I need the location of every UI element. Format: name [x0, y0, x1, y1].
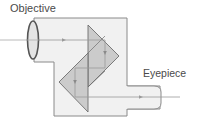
eyepiece-tube: [127, 86, 161, 109]
binocular-prism-diagram: [0, 0, 200, 127]
objective-label: Objective: [10, 3, 56, 14]
eyepiece-label: Eyepiece: [143, 68, 186, 79]
